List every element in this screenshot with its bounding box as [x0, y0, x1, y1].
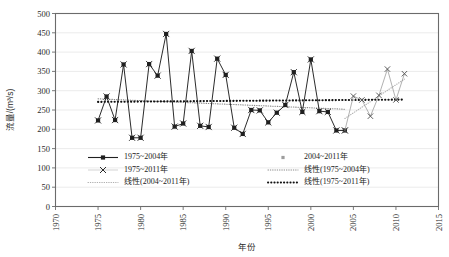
- legend-marker-square: [101, 155, 105, 159]
- chart-canvas: 050100150200250300350400450500 197019751…: [0, 0, 449, 257]
- y-tick-label: 400: [37, 47, 50, 57]
- y-tick-label: 300: [37, 86, 50, 96]
- x-tick-label: 1990: [221, 214, 231, 231]
- legend-marker-point: [281, 156, 284, 159]
- legend-label: 线性(2004~2011年): [124, 176, 190, 186]
- x-tick-label: 1970: [51, 214, 61, 231]
- y-tick-label: 450: [37, 28, 50, 38]
- y-tick-label: 100: [37, 163, 50, 173]
- y-tick-label: 200: [37, 124, 50, 134]
- legend-label: 2004~2011年: [304, 151, 348, 161]
- x-tick-label: 2005: [348, 214, 358, 231]
- y-tick-label: 350: [37, 66, 50, 76]
- y-tick-label: 50: [42, 182, 51, 192]
- flow-discharge-chart: 050100150200250300350400450500 197019751…: [0, 0, 449, 257]
- x-tick-label: 1985: [178, 214, 188, 231]
- legend-label: 1975~2004年: [124, 151, 168, 161]
- legend-label: 线性(1975~2011年): [304, 176, 370, 186]
- y-tick-label: 150: [37, 144, 50, 154]
- y-tick-label: 500: [37, 9, 50, 19]
- x-tick-label: 2000: [306, 214, 316, 231]
- x-tick-label: 1980: [136, 214, 146, 231]
- x-axis-title: 年份: [238, 242, 256, 252]
- x-tick-label: 1995: [263, 214, 273, 231]
- legend-label: 线性(1975~2004年): [304, 164, 370, 174]
- x-tick-label: 2010: [391, 214, 401, 231]
- y-tick-label: 0: [46, 202, 50, 212]
- x-tick-label: 1975: [93, 214, 103, 231]
- y-tick-label: 250: [37, 105, 50, 115]
- x-tick-label: 2015: [434, 214, 444, 231]
- legend-label: 1975~2011年: [124, 164, 168, 174]
- y-axis-title: 流量/(m³/s): [5, 89, 15, 132]
